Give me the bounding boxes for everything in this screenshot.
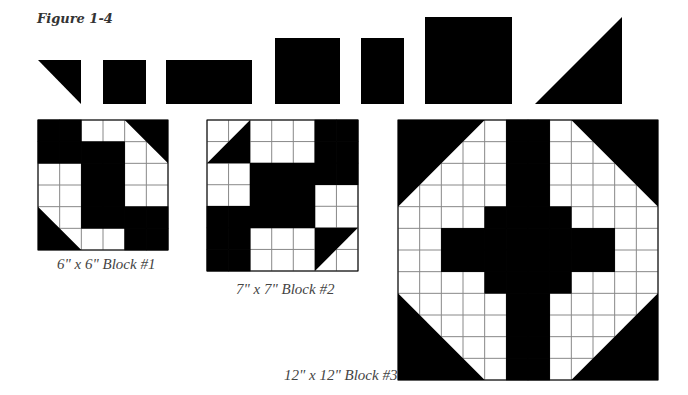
quilt-block-2 bbox=[206, 119, 359, 272]
figure-title: Figure 1-4 bbox=[37, 11, 113, 26]
block-3-label: 12" x 12" Block #3 bbox=[284, 367, 397, 384]
block-1-label: 6" x 6" Block #1 bbox=[57, 256, 155, 273]
square-large-shape bbox=[425, 17, 512, 104]
rectangle-wide-shape bbox=[166, 60, 252, 104]
triangle-small-shape bbox=[38, 60, 81, 104]
square-small-shape bbox=[103, 60, 146, 104]
block-2-label: 7" x 7" Block #2 bbox=[236, 281, 334, 298]
rectangle-tall-shape bbox=[361, 38, 404, 104]
quilt-block-3 bbox=[397, 119, 659, 381]
quilt-block-1 bbox=[37, 119, 169, 251]
square-medium-shape bbox=[275, 38, 340, 104]
triangle-large-shape bbox=[535, 17, 622, 104]
